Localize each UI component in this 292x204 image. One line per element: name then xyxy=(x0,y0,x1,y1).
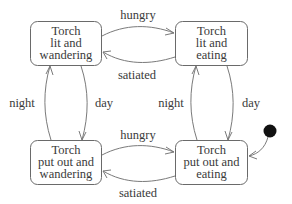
transition-day-left: day xyxy=(79,66,114,140)
transition-label: satiated xyxy=(119,186,158,200)
state-label-line: wandering xyxy=(40,167,94,181)
state-out-eating: Torch put out and eating xyxy=(176,141,248,185)
transition-satiated-top: satiated xyxy=(103,51,175,82)
transition-hungry-top: hungry xyxy=(102,8,174,36)
transition-label: hungry xyxy=(120,128,156,142)
state-lit-eating: Torch lit and eating xyxy=(176,22,248,66)
transition-label: hungry xyxy=(120,8,156,22)
arrowhead-icon xyxy=(46,66,53,75)
state-label-line: eating xyxy=(196,48,227,62)
arrowhead-icon xyxy=(103,51,111,59)
transition-label: night xyxy=(9,96,35,110)
state-label-line: wandering xyxy=(40,48,94,62)
arrowhead-icon xyxy=(103,170,111,178)
transition-satiated-bottom: satiated xyxy=(103,170,175,200)
transition-night-right: night xyxy=(158,66,199,140)
transition-label: day xyxy=(95,96,114,110)
arrowhead-icon xyxy=(192,66,199,75)
transition-label: night xyxy=(158,96,184,110)
state-out-wandering: Torch put out and wandering xyxy=(31,141,102,185)
state-label-line: eating xyxy=(196,167,227,181)
transition-label: satiated xyxy=(118,68,157,82)
arrowhead-icon xyxy=(79,131,86,140)
initial-state-dot-icon xyxy=(264,125,277,138)
state-diagram: Torch lit and wandering Torch lit and ea… xyxy=(0,0,292,204)
transition-hungry-bottom: hungry xyxy=(102,128,174,155)
transition-label: day xyxy=(242,96,261,110)
initial-state xyxy=(249,125,277,160)
arrowhead-icon xyxy=(225,131,232,140)
state-lit-wandering: Torch lit and wandering xyxy=(31,22,102,66)
transition-night-left: night xyxy=(9,66,53,140)
transition-day-right: day xyxy=(225,66,261,140)
